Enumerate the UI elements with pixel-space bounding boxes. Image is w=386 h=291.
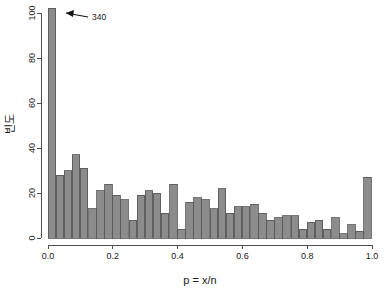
histogram-bar — [234, 207, 242, 239]
histogram-bar — [340, 234, 348, 239]
histogram-bar — [323, 229, 331, 238]
histogram-bar — [153, 193, 161, 238]
y-axis-title: 빈도 — [4, 114, 16, 134]
histogram-bar — [218, 189, 226, 239]
x-tick-label: 0.0 — [42, 251, 55, 261]
histogram-bar — [332, 218, 340, 238]
histogram-bar — [186, 202, 194, 238]
x-tick-label: 0.8 — [301, 251, 314, 261]
histogram-bar — [105, 184, 113, 238]
histogram-bar — [129, 220, 137, 238]
histogram-bar — [299, 229, 307, 238]
y-tick-label: 20 — [27, 188, 37, 198]
y-axis — [37, 13, 41, 238]
x-tick-labels: 0.00.20.40.60.81.0 — [42, 251, 379, 261]
histogram-bar — [242, 207, 250, 239]
histogram-bar — [226, 213, 234, 238]
histogram-bar — [194, 198, 202, 239]
x-axis-title: p = x/n — [183, 274, 216, 286]
histogram-bar — [291, 216, 299, 239]
histogram-bar — [170, 184, 178, 238]
histogram-bar — [48, 8, 56, 238]
histogram-bar — [356, 231, 364, 238]
histogram-bar — [56, 175, 64, 238]
histogram-bar — [161, 213, 169, 238]
histogram-bar — [259, 213, 267, 238]
histogram-bar — [80, 168, 88, 238]
x-tick-label: 0.2 — [107, 251, 120, 261]
histogram-bar — [64, 171, 72, 239]
y-tick-label: 40 — [27, 143, 37, 153]
annotation-340: 340 — [66, 10, 106, 22]
histogram-bar — [178, 229, 186, 238]
annotation-label: 340 — [92, 12, 106, 22]
y-tick-label: 0 — [27, 235, 37, 240]
histogram-bar — [137, 195, 145, 238]
x-tick-label: 0.4 — [171, 251, 184, 261]
histogram-bar — [202, 200, 210, 238]
histogram-bar — [315, 220, 323, 238]
histogram-bar — [145, 191, 153, 238]
histogram-bar — [210, 209, 218, 238]
y-tick-label: 60 — [27, 98, 37, 108]
histogram-bar — [364, 177, 372, 238]
y-tick-label: 80 — [27, 53, 37, 63]
histogram-bar — [89, 209, 97, 238]
histogram-bar — [267, 220, 275, 238]
histogram-svg: 0.00.20.40.60.81.0 020406080100 p = x/n … — [0, 0, 386, 291]
y-tick-label: 100 — [27, 5, 37, 20]
histogram-bar — [121, 200, 128, 238]
annotation-arrowhead — [66, 10, 74, 17]
histogram-figure: 0.00.20.40.60.81.0 020406080100 p = x/n … — [0, 0, 386, 291]
histogram-bar — [348, 225, 356, 239]
histogram-bar — [307, 222, 315, 238]
histogram-bar — [72, 155, 80, 238]
x-tick-label: 1.0 — [366, 251, 379, 261]
histogram-bar — [283, 216, 291, 239]
histogram-bar — [251, 204, 259, 238]
x-axis — [48, 245, 372, 249]
histogram-bar — [113, 195, 121, 238]
y-tick-labels: 020406080100 — [27, 5, 37, 240]
histogram-bar — [97, 191, 105, 238]
x-tick-label: 0.6 — [236, 251, 249, 261]
histogram-bar — [275, 218, 283, 238]
bars-group — [48, 8, 371, 238]
